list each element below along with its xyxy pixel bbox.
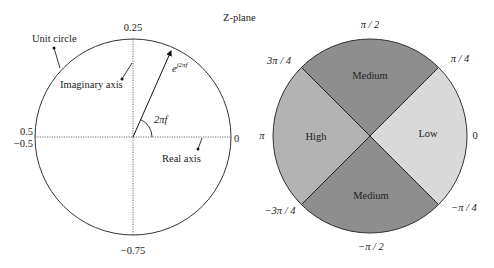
label-bottom-neg-0-75: −0.75 — [121, 245, 145, 256]
region-label-medium-bottom: Medium — [353, 190, 389, 201]
label-angle: 2πf — [154, 114, 170, 125]
label-vector: ej2πf — [172, 61, 189, 74]
label-right-0: 0 — [234, 133, 239, 144]
label-left-neg-0-5: −0.5 — [14, 138, 33, 149]
angle-label-pi-over-4: π / 4 — [451, 53, 470, 64]
z-plane-title: Z-plane — [223, 12, 256, 23]
angle-arc — [141, 120, 152, 137]
angle-label-neg-3pi-over-4: −3π / 4 — [264, 205, 296, 216]
angle-label-neg-pi-over-4: −π / 4 — [451, 202, 478, 213]
diagram-canvas: 0.25 −0.75 0.5 −0.5 0 Unit circle Imagin… — [0, 0, 494, 268]
unit-circle-callout-dot — [53, 47, 56, 50]
unit-circle-diagram: 0.25 −0.75 0.5 −0.5 0 Unit circle Imagin… — [14, 22, 239, 256]
real-axis-callout — [198, 138, 202, 149]
angle-label-pi-over-2: π / 2 — [361, 19, 380, 30]
label-real-axis: Real axis — [162, 153, 201, 164]
region-label-high: High — [306, 131, 328, 142]
label-left-0-5: 0.5 — [20, 126, 33, 137]
label-unit-circle: Unit circle — [32, 33, 77, 44]
angle-label-3pi-over-4: 3π / 4 — [266, 55, 292, 66]
label-imaginary-axis: Imaginary axis — [60, 79, 123, 90]
region-label-low: Low — [418, 128, 438, 139]
z-plane-diagram: Medium High Low Medium π / 2 3π / 4 π / … — [259, 19, 477, 252]
real-axis-callout-dot — [197, 148, 200, 151]
label-top-0-25: 0.25 — [124, 22, 142, 33]
angle-label-0: 0 — [472, 130, 477, 141]
angle-label-neg-pi-over-2: −π / 2 — [358, 241, 385, 252]
angle-label-pi: π — [259, 130, 265, 141]
imaginary-axis-callout — [122, 63, 132, 79]
unit-circle-callout — [54, 48, 60, 68]
region-label-medium-top: Medium — [352, 70, 388, 81]
